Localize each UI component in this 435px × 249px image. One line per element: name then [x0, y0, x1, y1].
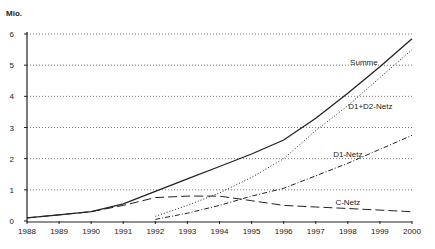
y-tick-label: 1: [10, 186, 15, 195]
x-tick-label: 1988: [18, 227, 36, 236]
x-axis-ticks: 1988198919901991199219931994199519961997…: [18, 221, 421, 236]
x-tick-label: 1995: [243, 227, 261, 236]
y-tick-label: 6: [10, 30, 15, 39]
series-label: D1-Netz: [333, 150, 362, 159]
x-tick-label: 1998: [339, 227, 357, 236]
x-tick-label: 1996: [275, 227, 293, 236]
y-unit-label: Mio.: [6, 9, 22, 18]
y-tick-label: 4: [10, 92, 15, 101]
y-axis-ticks: 0123456: [10, 30, 27, 226]
x-tick-label: 1993: [179, 227, 197, 236]
series-label: Summe: [350, 58, 378, 67]
x-tick-label: 1991: [114, 227, 132, 236]
series-line-d1-d2-netz: [155, 50, 412, 217]
y-tick-label: 2: [10, 155, 15, 164]
y-tick-label: 5: [10, 61, 15, 70]
y-tick-label: 0: [10, 217, 15, 226]
x-tick-label: 1990: [82, 227, 100, 236]
y-tick-label: 3: [10, 124, 15, 133]
x-tick-label: 1994: [211, 227, 229, 236]
x-tick-label: 2000: [403, 227, 421, 236]
series-label: D1+D2-Netz: [348, 102, 392, 111]
x-tick-label: 1999: [371, 227, 389, 236]
x-tick-label: 1997: [307, 227, 325, 236]
x-tick-label: 1989: [50, 227, 68, 236]
series-line-d1-netz: [155, 135, 412, 219]
series-label: C-Netz: [335, 198, 360, 207]
line-chart: Mio. 0123456 198819891990199119921993199…: [0, 0, 435, 249]
x-tick-label: 1992: [146, 227, 164, 236]
